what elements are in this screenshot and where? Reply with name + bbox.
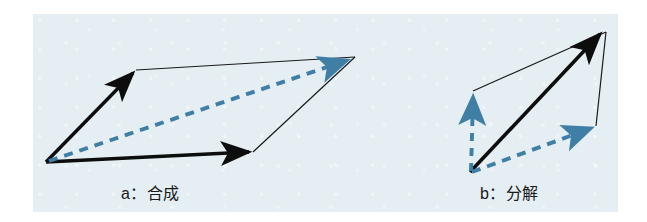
panel-b-construction-line-upper — [473, 32, 606, 91]
vector-diagram-canvas — [0, 0, 647, 222]
figure-root: a：合成 b：分解 — [0, 0, 647, 222]
panel-a-diagram — [46, 57, 355, 162]
panel-a-caption: a：合成 — [121, 180, 180, 204]
panel-a-resultant-vector-diagonal — [49, 61, 345, 161]
panel-b-caption: b：分解 — [480, 180, 539, 204]
panel-b-diagram — [470, 32, 606, 172]
panel-b-construction-line-right — [596, 32, 606, 126]
panel-a-component-vector-up — [46, 73, 133, 162]
panel-a-construction-line-right — [253, 57, 355, 152]
panel-a-component-vector-right — [46, 152, 249, 162]
panel-b-component-vector-vertical — [471, 99, 473, 171]
panel-b-resultant-vector-main — [470, 34, 600, 172]
